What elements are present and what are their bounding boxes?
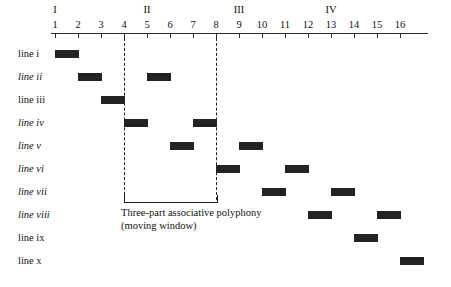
axis-tick (262, 33, 263, 38)
axis-group-label: III (227, 4, 251, 15)
axis-tick-label: 6 (158, 19, 182, 30)
axis-tick (101, 33, 102, 38)
axis-tick-label: 3 (89, 19, 113, 30)
line-segment-bar (331, 188, 355, 196)
annotation-line-2: (moving window) (121, 219, 197, 232)
axis-tick-label: 13 (319, 19, 343, 30)
row-label: line ii (18, 71, 72, 83)
row-label: line vi (18, 163, 72, 175)
axis-tick (400, 33, 401, 38)
row-label: line iii (18, 94, 72, 106)
line-segment-bar (216, 165, 240, 173)
line-segment-bar (55, 50, 79, 58)
axis-tick-label: 16 (388, 19, 412, 30)
axis-tick-label: 5 (135, 19, 159, 30)
axis-group-label: I (43, 4, 67, 15)
axis-tick-label: 11 (273, 19, 297, 30)
line-segment-bar (170, 142, 194, 150)
axis-tick (308, 33, 309, 38)
axis-group-label: II (135, 4, 159, 15)
line-segment-bar (262, 188, 286, 196)
line-segment-bar (124, 119, 148, 127)
axis-tick (239, 33, 240, 38)
row-label: line viii (18, 209, 72, 221)
line-segment-bar (147, 73, 171, 81)
figure-canvas: IIIIIIIV 12345678910111213141516 line il… (0, 0, 451, 287)
axis-group-label: IV (319, 4, 343, 15)
axis-tick-label: 14 (342, 19, 366, 30)
line-segment-bar (239, 142, 263, 150)
line-segment-bar (308, 211, 332, 219)
line-segment-bar (285, 165, 309, 173)
axis-tick (170, 33, 171, 38)
axis-tick (354, 33, 355, 38)
axis-tick (147, 33, 148, 38)
axis-tick-label: 1 (43, 19, 67, 30)
axis-tick (285, 33, 286, 38)
row-label: line vii (18, 186, 72, 198)
axis-tick (377, 33, 378, 38)
row-label: line ix (18, 232, 72, 244)
axis-tick-label: 4 (112, 19, 136, 30)
axis-tick-label: 10 (250, 19, 274, 30)
row-label: line x (18, 255, 72, 267)
axis-tick-label: 12 (296, 19, 320, 30)
line-segment-bar (400, 257, 424, 265)
line-segment-bar (377, 211, 401, 219)
line-segment-bar (354, 234, 378, 242)
window-bracket (124, 195, 218, 203)
line-segment-bar (101, 96, 125, 104)
axis-tick-label: 9 (227, 19, 251, 30)
row-label: line iv (18, 117, 72, 129)
axis-tick-label: 2 (66, 19, 90, 30)
axis-tick (55, 33, 56, 38)
axis-tick-label: 15 (365, 19, 389, 30)
annotation-line-1: Three-part associative polyphony (121, 206, 262, 219)
axis-tick (78, 33, 79, 38)
line-segment-bar (78, 73, 102, 81)
line-segment-bar (193, 119, 217, 127)
axis-tick (331, 33, 332, 38)
axis-tick (193, 33, 194, 38)
axis-tick-label: 8 (204, 19, 228, 30)
row-label: line v (18, 140, 72, 152)
axis-tick-label: 7 (181, 19, 205, 30)
